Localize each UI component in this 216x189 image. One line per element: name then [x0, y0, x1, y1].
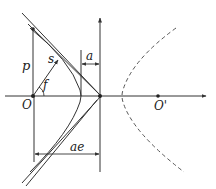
vertex-dot — [98, 94, 102, 98]
hyperbola-diagram: p s f a O O' ae — [0, 0, 216, 189]
label-s: s — [48, 52, 54, 66]
hyperbola-branch-dashed — [122, 28, 184, 172]
label-O: O — [22, 98, 32, 112]
focus-O-prime — [156, 94, 160, 98]
label-O-prime: O' — [154, 99, 167, 113]
label-a: a — [86, 49, 93, 63]
label-ae: ae — [70, 140, 84, 154]
label-f: f — [42, 78, 50, 92]
asymptote-lower-inner — [26, 100, 97, 186]
label-p: p — [22, 58, 31, 73]
